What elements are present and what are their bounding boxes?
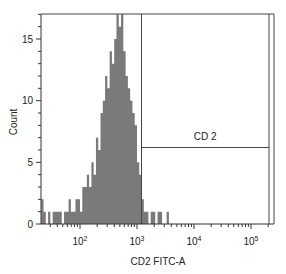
y-tick-label: 15 bbox=[22, 34, 34, 45]
cd2-gate bbox=[142, 14, 269, 224]
gate-label: CD 2 bbox=[194, 131, 217, 142]
x-tick-label: 105 bbox=[243, 235, 258, 247]
x-tick-label: 104 bbox=[186, 235, 201, 247]
y-tick-label: 0 bbox=[27, 219, 33, 230]
y-tick-label: 5 bbox=[27, 157, 33, 168]
x-tick-label: 103 bbox=[129, 235, 144, 247]
histogram-fill bbox=[41, 14, 171, 224]
flow-cytometry-histogram: 051015102103104105 CD 2 CD2 FITC-A Count bbox=[0, 0, 286, 274]
histogram-bars bbox=[41, 14, 171, 224]
y-tick-label: 10 bbox=[22, 95, 34, 106]
x-tick-label: 102 bbox=[72, 235, 87, 247]
x-axis-label: CD2 FITC-A bbox=[131, 256, 186, 267]
y-axis-label: Count bbox=[8, 108, 19, 135]
